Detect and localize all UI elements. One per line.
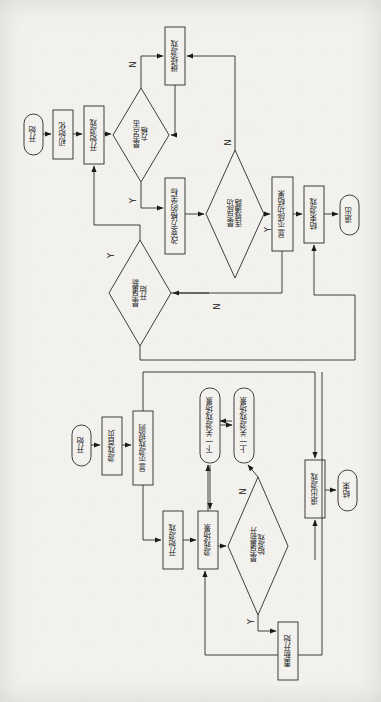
node-init <box>53 110 73 159</box>
edge-restart-y-startgame <box>94 166 140 240</box>
edge-decidepath-n-continue <box>187 56 235 150</box>
edge-b-rail-quit <box>143 372 315 458</box>
edge-b-restart-quit <box>298 372 322 655</box>
node-decide-path <box>206 150 264 278</box>
node-rules <box>133 411 153 485</box>
node-continue-game <box>165 27 185 85</box>
node-scene <box>198 511 218 569</box>
scanned-page: 开始 初始化 开始游戏 是否点击 方格 继续游戏 改变方格的坐标 是否成功 连城… <box>0 0 381 702</box>
flowchart-drawing-layer <box>0 0 381 702</box>
edge-decide-n-continue <box>141 56 163 88</box>
node-exit <box>340 195 359 235</box>
node-next-level <box>200 388 220 463</box>
node-start-game-top <box>84 106 104 164</box>
node-show-result <box>272 177 293 251</box>
node-prev-level <box>234 388 254 463</box>
edge-b-decide-y-restart <box>258 615 276 631</box>
edge-decide-y-change <box>141 182 163 208</box>
node-end-game <box>304 186 324 243</box>
node-start-game-bottom <box>163 511 183 569</box>
node-restart <box>278 622 298 680</box>
edge-result-restart <box>173 251 282 293</box>
edge-restart-n-endgame <box>140 245 355 360</box>
node-home <box>102 417 122 475</box>
node-decide-click <box>113 88 169 182</box>
node-start-bottom <box>72 425 91 466</box>
edge-b-decide-n-prev <box>248 465 258 477</box>
edge-b-rules-startgame <box>143 485 161 540</box>
node-decide-restart-bottom <box>228 477 288 615</box>
node-change-coord <box>165 178 185 254</box>
node-decide-restart-top <box>109 240 171 346</box>
node-end-bottom <box>338 470 357 511</box>
edge-b-restart-scene <box>205 571 278 655</box>
node-start-top <box>24 114 43 155</box>
edge-continue-back <box>171 85 175 135</box>
